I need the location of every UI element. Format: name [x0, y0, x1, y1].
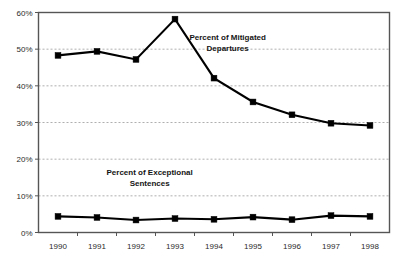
x-tick-label: 1997	[322, 242, 340, 251]
data-point-marker	[172, 216, 178, 222]
exceptional-sentences-label: Percent of ExceptionalSentences	[107, 168, 193, 188]
line-chart: 0%10%20%30%40%50%60% 1990199119921993199…	[0, 0, 407, 266]
series-2	[55, 213, 373, 223]
data-point-marker	[211, 75, 217, 81]
y-tick-label: 30%	[16, 119, 32, 128]
mitigated-departures-label: Percent of MitigatedDepartures	[189, 33, 266, 53]
data-point-marker	[133, 217, 139, 223]
x-tick-label: 1991	[88, 242, 106, 251]
x-tick-label: 1995	[244, 242, 262, 251]
data-point-marker	[55, 213, 61, 219]
y-tick-label: 60%	[16, 9, 32, 18]
data-point-marker	[55, 53, 61, 59]
data-point-marker	[328, 213, 334, 219]
y-tick-label: 0%	[21, 229, 33, 238]
data-point-marker	[367, 213, 373, 219]
data-point-marker	[367, 123, 373, 129]
data-point-marker	[211, 216, 217, 222]
series-annotations: Percent of MitigatedDeparturesPercent of…	[107, 33, 266, 188]
data-point-marker	[133, 57, 139, 63]
y-tick-label: 10%	[16, 192, 32, 201]
y-tick-label: 20%	[16, 155, 32, 164]
chart-figure: 0%10%20%30%40%50%60% 1990199119921993199…	[0, 0, 407, 266]
gridlines-layer	[39, 49, 390, 196]
data-point-marker	[289, 112, 295, 118]
data-point-marker	[94, 48, 100, 54]
data-point-marker	[172, 16, 178, 22]
x-tick-label: 1993	[166, 242, 184, 251]
data-point-marker	[94, 215, 100, 221]
y-tick-label: 40%	[16, 82, 32, 91]
y-tick-label: 50%	[16, 45, 32, 54]
x-tick-label: 1996	[283, 242, 301, 251]
x-tick-label: 1998	[361, 242, 379, 251]
y-axis-tick-labels: 0%10%20%30%40%50%60%	[16, 9, 32, 238]
data-point-marker	[328, 120, 334, 126]
x-tick-label: 1992	[127, 242, 145, 251]
x-tick-label: 1994	[205, 242, 223, 251]
x-tick-label: 1990	[49, 242, 67, 251]
data-point-marker	[289, 217, 295, 223]
x-axis-tick-labels: 199019911992199319941995199619971998	[49, 242, 379, 251]
data-point-marker	[250, 214, 256, 220]
data-point-marker	[250, 99, 256, 105]
